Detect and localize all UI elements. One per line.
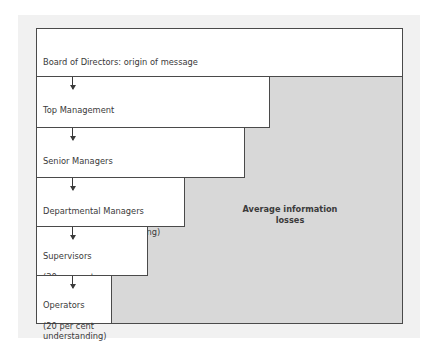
level-name: Senior Managers: [43, 156, 113, 166]
arrow-down-icon: [72, 77, 73, 89]
level-name: Operators: [43, 300, 84, 310]
level-operators: Operators (20 per cent understanding): [36, 275, 112, 324]
arrow-down-icon: [72, 178, 73, 190]
level-board-of-directors: Board of Directors: origin of message (1…: [36, 28, 403, 77]
level-name: Board of Directors: origin of message: [43, 57, 198, 67]
average-information-losses-label: Average information losses: [235, 204, 345, 226]
level-supervisors: Supervisors (30 per cent understanding): [36, 226, 148, 276]
arrow-down-icon: [72, 276, 73, 288]
level-departmental-managers: Departmental Managers (40 per cent under…: [36, 177, 185, 227]
level-understanding: (20 per cent understanding): [43, 321, 107, 342]
level-top-management: Top Management (63 per cent understandin…: [36, 76, 270, 128]
level-text: Operators (20 per cent understanding): [43, 289, 107, 342]
arrow-down-icon: [72, 128, 73, 140]
level-senior-managers: Senior Managers (56 per cent understandi…: [36, 127, 245, 178]
level-name: Top Management: [43, 105, 114, 115]
level-name: Departmental Managers: [43, 206, 144, 216]
level-name: Supervisors: [43, 251, 92, 261]
arrow-down-icon: [72, 227, 73, 239]
